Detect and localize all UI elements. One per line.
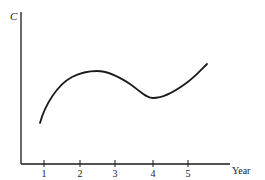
x-tick-label-3: 3 bbox=[113, 168, 118, 179]
x-axis-label: Year bbox=[232, 165, 251, 176]
data-curve bbox=[40, 64, 207, 123]
x-tick-label-4: 4 bbox=[151, 168, 156, 179]
x-tick-label-5: 5 bbox=[186, 168, 191, 179]
x-tick-labels: 1 2 3 4 5 bbox=[42, 168, 191, 179]
chart: C Year 1 2 3 4 5 bbox=[0, 0, 265, 180]
x-tick-label-1: 1 bbox=[42, 168, 47, 179]
y-axis-label: C bbox=[10, 10, 18, 22]
x-tick-label-2: 2 bbox=[78, 168, 83, 179]
